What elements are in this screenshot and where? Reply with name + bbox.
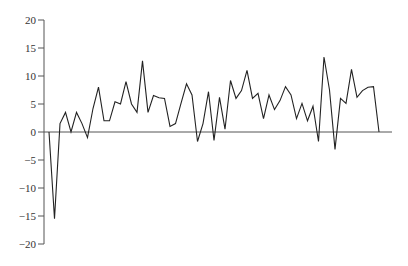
y-tick-label: 15 — [25, 42, 37, 54]
y-tick-label: −10 — [19, 182, 37, 194]
y-axis: 20151050−5−10−15−20 — [19, 14, 44, 250]
y-tick-label: 5 — [31, 98, 37, 110]
y-tick-label: −15 — [19, 210, 37, 222]
data-series-line — [49, 57, 379, 219]
line-chart: 20151050−5−10−15−20 — [0, 0, 408, 266]
y-tick-label: −20 — [19, 238, 37, 250]
y-tick-label: 20 — [25, 14, 37, 26]
y-tick-label: −5 — [24, 154, 36, 166]
y-tick-label: 0 — [31, 126, 37, 138]
y-tick-label: 10 — [25, 70, 37, 82]
